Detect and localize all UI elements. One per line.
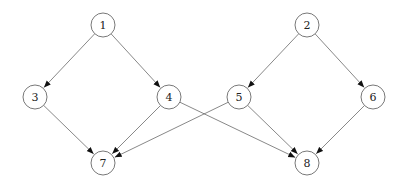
node-label: 4: [166, 91, 173, 104]
node-label: 3: [32, 91, 39, 104]
node-3: 3: [23, 85, 47, 109]
edge-4-to-8: [180, 102, 295, 157]
node-5: 5: [227, 85, 251, 109]
node-4: 4: [157, 85, 181, 109]
edges-layer: [44, 34, 365, 158]
edge-2-to-6: [315, 34, 364, 88]
edge-1-to-3: [44, 34, 95, 88]
node-8: 8: [295, 151, 319, 175]
node-label: 6: [370, 91, 377, 104]
edge-6-to-8: [316, 105, 364, 153]
node-7: 7: [91, 151, 115, 175]
nodes-layer: 12345678: [23, 13, 385, 175]
edge-1-to-4: [111, 34, 160, 88]
node-label: 1: [100, 19, 107, 32]
node-6: 6: [361, 85, 385, 109]
node-label: 7: [100, 157, 107, 170]
node-label: 5: [236, 91, 243, 104]
node-label: 8: [304, 157, 311, 170]
edge-3-to-7: [44, 105, 94, 154]
graph-canvas: 12345678: [0, 0, 405, 190]
edge-2-to-5: [248, 34, 299, 88]
node-2: 2: [295, 13, 319, 37]
node-label: 2: [304, 19, 311, 32]
node-1: 1: [91, 13, 115, 37]
edge-5-to-7: [115, 102, 229, 157]
